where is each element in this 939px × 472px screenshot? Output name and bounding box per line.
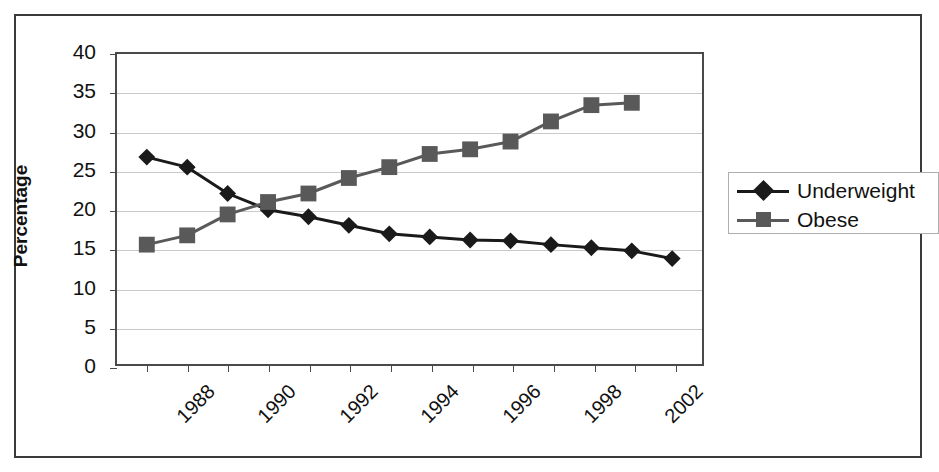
x-axis-tick-label: 1994 [416,380,464,428]
legend-item-label: Underweight [791,179,915,203]
data-point-square [139,237,155,253]
y-axis-tick [110,329,117,330]
legend-item-obese[interactable]: Obese [735,206,859,234]
data-point-diamond [543,236,560,253]
x-axis-tick-label: 1990 [253,380,301,428]
y-axis-tick-label: 40 [50,41,96,62]
y-axis-tick-label: 25 [50,159,96,180]
y-axis-tick-label: 15 [50,237,96,258]
data-point-square [503,134,519,150]
y-axis-tick-label: 20 [50,198,96,219]
data-point-square [624,95,640,111]
y-axis-title: Percentage [10,116,32,316]
data-point-diamond [300,208,317,225]
y-axis-tick-label: 10 [50,277,96,298]
data-point-square [220,207,236,223]
y-axis-tick-labels: 4035302520151050 [48,38,96,368]
chart-legend: UnderweightObese [728,172,939,234]
legend-key [735,180,791,202]
data-point-diamond [664,250,681,267]
y-axis-tick [110,250,117,251]
y-axis-tick [110,93,117,94]
legend-square-marker-icon [756,212,771,227]
data-point-diamond [179,159,196,176]
plot-area [115,52,704,366]
y-axis-tick-label: 5 [50,316,96,337]
y-axis-tick [110,133,117,134]
legend-item-label: Obese [791,208,859,232]
data-point-diamond [583,239,600,256]
data-point-square [381,159,397,175]
data-point-diamond [381,225,398,242]
data-point-diamond [138,149,155,166]
data-point-square [341,170,357,186]
data-point-diamond [623,242,640,259]
data-point-square [422,146,438,162]
data-point-square [301,186,317,202]
y-axis-tick [110,290,117,291]
data-point-square [260,194,276,210]
x-axis-tick-label: 1998 [579,380,627,428]
y-axis-tick [110,172,117,173]
data-point-square [179,227,195,243]
legend-diamond-marker-icon [753,180,774,201]
data-point-diamond [340,217,357,234]
y-axis-tick [110,211,117,212]
data-point-diamond [421,229,438,246]
y-axis-tick-label: 30 [50,120,96,141]
legend-key [735,209,791,231]
data-point-square [583,97,599,113]
y-axis-tick [110,54,117,55]
legend-item-underweight[interactable]: Underweight [735,177,915,205]
series-layer [117,54,702,364]
data-point-square [462,141,478,157]
data-point-diamond [219,185,236,202]
x-axis-tick-label: 1992 [335,380,383,428]
x-axis-tick-label: 2002 [660,380,708,428]
x-axis-tick-labels: 1988199019921994199619982002 [115,368,735,448]
x-axis-tick-label: 1996 [498,380,546,428]
data-point-diamond [462,232,479,249]
data-point-diamond [502,232,519,249]
data-point-square [543,114,559,130]
y-axis-tick-label: 0 [50,355,96,376]
y-axis-tick-label: 35 [50,80,96,101]
x-axis-tick-label: 1988 [172,380,220,428]
chart-frame: Percentage 4035302520151050 198819901992… [14,14,922,458]
